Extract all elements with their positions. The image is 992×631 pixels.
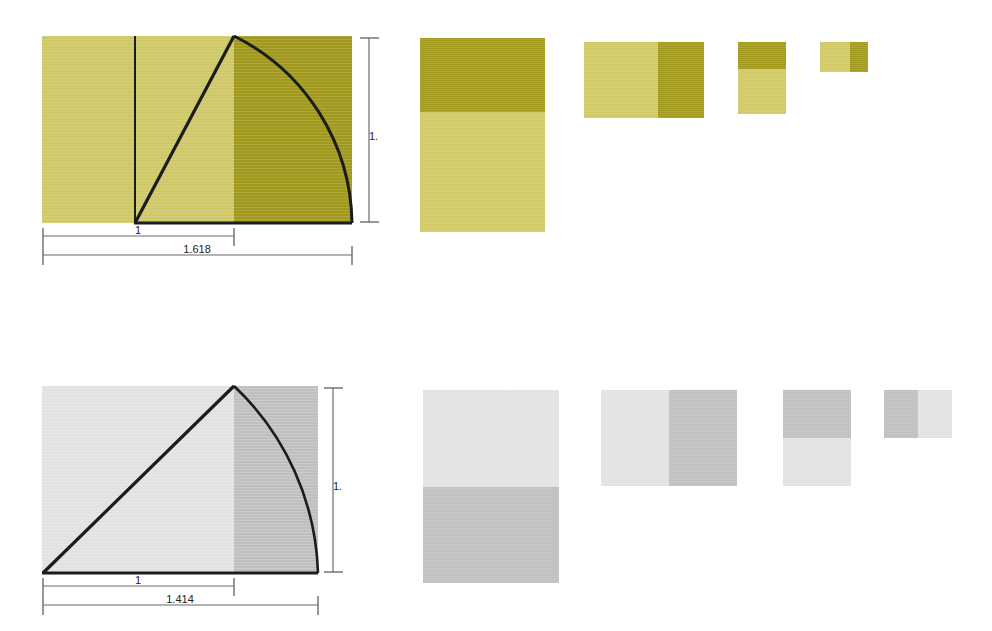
silver-texture	[42, 386, 318, 573]
silver-rect-4	[884, 390, 952, 438]
silver-rect-1	[423, 390, 559, 583]
gold-rect-2-part-a	[584, 42, 658, 118]
silver-rect-1-part-a	[423, 390, 559, 487]
gold-rect-2	[584, 42, 704, 118]
silver-rect-2-part-a	[601, 390, 669, 486]
gold-rect-2-part-b	[658, 42, 704, 118]
gold-rect-3-part-b	[738, 69, 786, 114]
gold-rect-1-part-b	[420, 112, 545, 232]
silver-rect-1-part-b	[423, 487, 559, 584]
gold-texture	[42, 36, 352, 223]
diagram-page: 図版説明	[0, 0, 992, 631]
gold-rect-1	[420, 38, 545, 232]
gold-unit-label: 1	[135, 224, 141, 236]
gold-rect-4-part-a	[820, 42, 850, 72]
silver-rect-3	[783, 390, 851, 486]
gold-rect-3-part-a	[738, 42, 786, 69]
silver-rect-2	[601, 390, 737, 486]
gold-rect-4	[820, 42, 868, 72]
silver-rect-4-part-a	[884, 390, 918, 438]
silver-rect-2-part-b	[669, 390, 737, 486]
gold-ratio-label: 1.618	[183, 243, 211, 255]
gold-rect-4-part-b	[850, 42, 868, 72]
silver-rect-3-part-b	[783, 438, 851, 486]
silver-unit-label: 1	[135, 574, 141, 586]
silver-rect-3-part-a	[783, 390, 851, 438]
silver-ratio-label: 1.414	[166, 593, 194, 605]
gold-rect-3	[738, 42, 786, 114]
gold-height-label: 1.	[369, 130, 378, 142]
gold-rect-1-part-a	[420, 38, 545, 112]
silver-height-label: 1.	[333, 480, 342, 492]
silver-rect-4-part-b	[918, 390, 952, 438]
